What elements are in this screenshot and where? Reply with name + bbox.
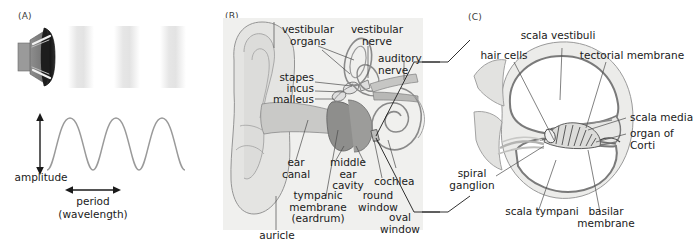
period-arrow (65, 186, 121, 194)
label-tympanic-membrane: tympanic membrane (eardrum) (274, 190, 362, 225)
label-tectorial-membrane: tectorial membrane (568, 50, 696, 62)
amplitude-arrow (36, 113, 44, 175)
sound-wave-bands (68, 26, 186, 88)
panel-b-ear-anatomy: (B) (218, 0, 440, 248)
label-ear-canal: ear canal (272, 157, 320, 180)
label-wavelength: (wavelength) (50, 209, 136, 221)
label-scala-vestibuli: scala vestibuli (506, 30, 610, 42)
label-round-window: round window (352, 190, 404, 213)
label-scala-media: scala media (630, 112, 698, 124)
label-auricle: auricle (246, 230, 308, 242)
label-middle-ear-cavity: middle ear cavity (322, 157, 374, 192)
label-vestibular-organs: vestibular organs (270, 24, 346, 47)
panel-c-cochlea-cross-section: (C) (440, 0, 698, 248)
label-auditory-nerve: auditory nerve (378, 53, 436, 76)
label-period: period (62, 196, 124, 208)
speaker-icon (18, 28, 55, 86)
label-hair-cells: hair cells (468, 50, 540, 62)
label-organ-of-corti: organ of Corti (630, 128, 694, 151)
label-basilar-membrane: basilar membrane (566, 206, 646, 229)
label-malleus: malleus (244, 94, 314, 106)
auditory-system-figure: (A) (0, 0, 698, 248)
panel-a-sound-wave: (A) (0, 0, 218, 248)
label-cochlea: cochlea (374, 176, 432, 188)
label-oval-window: oval window (374, 212, 426, 235)
label-amplitude: amplitude (0, 172, 82, 184)
label-vestibular-nerve: vestibular nerve (344, 24, 410, 47)
sine-wave (47, 118, 185, 170)
label-spiral-ganglion: spiral ganglion (444, 168, 500, 191)
